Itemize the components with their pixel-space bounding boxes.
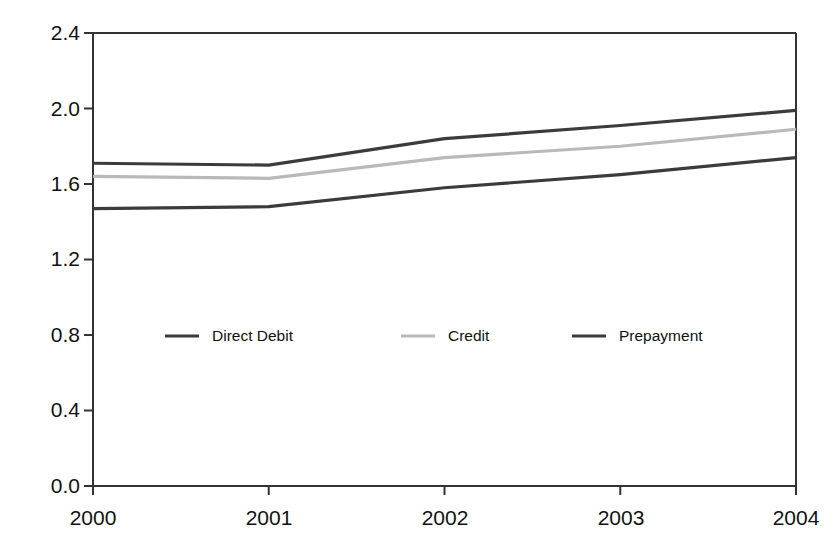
legend-label-direct-debit: Direct Debit xyxy=(212,327,293,345)
legend-label-credit: Credit xyxy=(448,327,489,345)
series-lines xyxy=(93,110,796,208)
y-tick-marks xyxy=(84,33,93,486)
legend-label-prepayment: Prepayment xyxy=(619,327,703,345)
x-tick-marks xyxy=(93,486,796,495)
series-line-credit xyxy=(93,129,796,178)
plot-area xyxy=(0,0,829,554)
line-chart: Pence/KWh 2.4 2.0 1.6 1.2 0.8 0.4 0.0 20… xyxy=(0,0,829,554)
